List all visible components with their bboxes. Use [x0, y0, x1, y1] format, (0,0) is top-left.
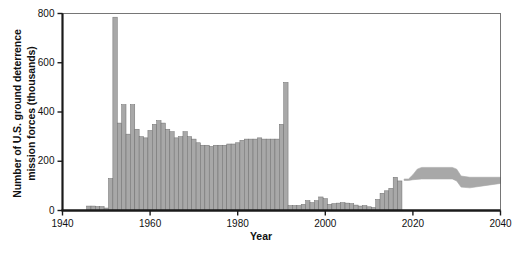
bar: [108, 178, 112, 210]
bar: [398, 181, 402, 211]
bar: [227, 144, 231, 210]
bar: [384, 191, 388, 211]
bar: [122, 105, 126, 211]
bar: [262, 139, 266, 210]
bar: [165, 129, 169, 210]
projection-band: [404, 167, 500, 187]
bar: [389, 188, 393, 210]
bar: [271, 139, 275, 210]
bar: [231, 144, 235, 210]
bar: [244, 139, 248, 210]
bar: [157, 121, 161, 211]
bar: [152, 124, 156, 210]
bar: [218, 145, 222, 210]
bar: [284, 82, 288, 210]
bar: [266, 139, 270, 210]
bar: [306, 201, 310, 211]
bar: [174, 138, 178, 211]
bar: [236, 143, 240, 211]
bar: [275, 139, 279, 210]
bar: [139, 137, 143, 211]
bar: [113, 17, 117, 210]
chart-figure: Number of U.S. ground deterrence mission…: [0, 0, 522, 254]
bar: [279, 124, 283, 210]
bar: [205, 145, 209, 210]
bar: [179, 137, 183, 211]
bar: [253, 139, 257, 210]
bar: [144, 138, 148, 211]
bar: [196, 143, 200, 211]
bar: [135, 129, 139, 210]
bar: [117, 123, 121, 210]
bar: [222, 145, 226, 210]
bar: [161, 123, 165, 210]
bar: [393, 177, 397, 210]
bar: [183, 132, 187, 211]
bar: [314, 201, 318, 211]
bar: [376, 199, 380, 210]
bar: [187, 137, 191, 211]
bar: [380, 193, 384, 210]
plot-area: [0, 0, 522, 254]
bar: [319, 197, 323, 211]
bar: [214, 145, 218, 210]
bar: [257, 138, 261, 211]
bar: [148, 130, 152, 210]
bar: [192, 139, 196, 210]
bar: [323, 199, 327, 211]
bar: [126, 134, 130, 210]
bar: [170, 132, 174, 211]
bar: [130, 105, 134, 211]
bar: [209, 146, 213, 210]
bar: [200, 145, 204, 210]
bar: [240, 140, 244, 210]
bar: [249, 139, 253, 210]
bar-series: [87, 17, 402, 210]
